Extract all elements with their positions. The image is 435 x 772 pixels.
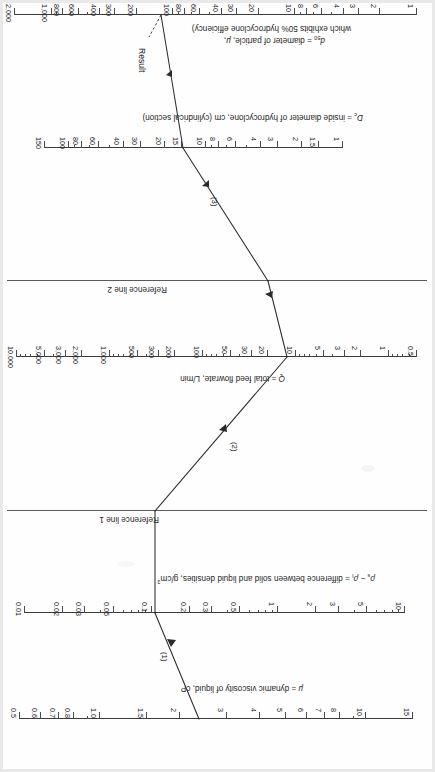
construction-arrowheads (166, 70, 273, 647)
scan-artifact (361, 465, 375, 472)
arrowhead-2b (265, 291, 273, 298)
arrowhead-2 (219, 424, 227, 432)
arrowhead-result (166, 70, 172, 77)
scan-artifact (117, 561, 135, 567)
figure-page: 1234681020304060801002003004006008001,00… (0, 0, 435, 772)
construction-segment-2 (155, 357, 287, 511)
construction-segment-1 (155, 613, 199, 719)
nomograph-sheet: 1234681020304060801002003004006008001,00… (0, 0, 435, 772)
arrowhead-3 (202, 180, 209, 187)
construction-segment-3 (183, 148, 268, 281)
result-label: Result (137, 48, 147, 72)
construction-drawing (0, 0, 435, 772)
step-label-1: (1) (160, 652, 169, 662)
step-label-2: (2) (230, 442, 239, 452)
step-label-3: (3) (210, 197, 219, 207)
construction-segment-result (161, 15, 183, 148)
result-leader-line (149, 15, 161, 37)
